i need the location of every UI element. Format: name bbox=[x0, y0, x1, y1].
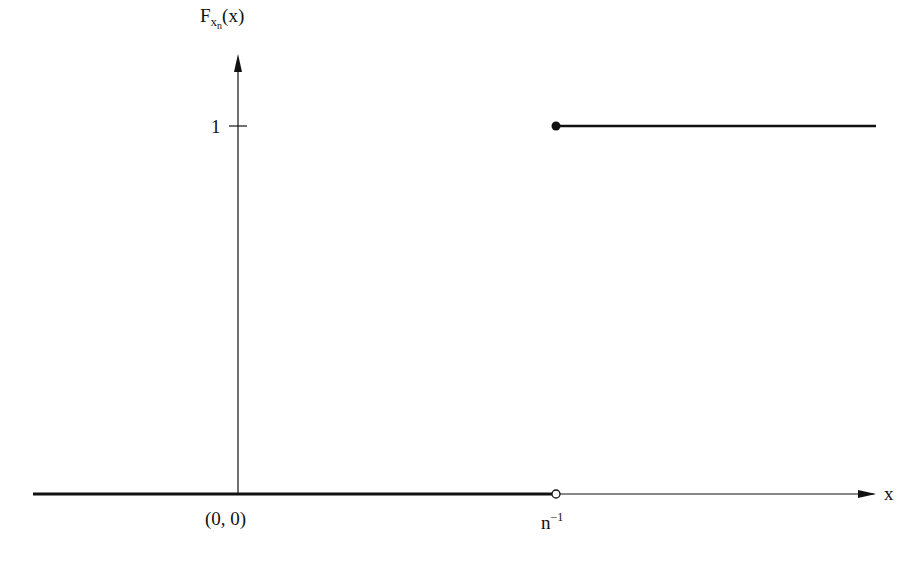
y-axis-arrow-icon bbox=[234, 54, 242, 72]
step-function-plot bbox=[0, 0, 924, 566]
x-axis-arrow-icon bbox=[858, 490, 876, 498]
x-tick-label-n-inverse: n−1 bbox=[541, 511, 563, 532]
filled-dot-marker bbox=[552, 122, 561, 131]
y-axis-label: Fxn(x) bbox=[200, 6, 244, 31]
x-tick-label-origin: (0, 0) bbox=[205, 509, 246, 528]
y-tick-label-1: 1 bbox=[211, 117, 221, 136]
x-axis-label: x bbox=[884, 484, 894, 503]
open-circle-marker bbox=[552, 490, 560, 498]
